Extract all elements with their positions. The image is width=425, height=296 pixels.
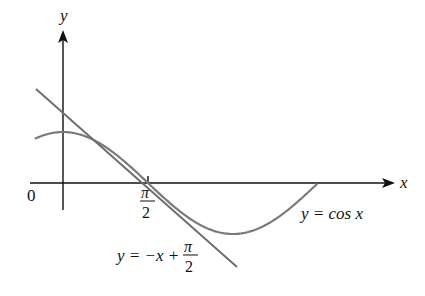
curve-label: y = cos x	[299, 204, 363, 223]
tangent-label: y = −x +	[115, 246, 179, 265]
tangent-line	[36, 89, 237, 267]
tangent-label-numerator: π	[184, 238, 193, 255]
tick-label-denominator: 2	[142, 204, 150, 221]
y-axis-label: y	[58, 6, 68, 25]
x-axis-label: x	[399, 173, 408, 192]
tangent-label-denominator: 2	[185, 258, 193, 275]
origin-label: 0	[27, 186, 36, 205]
figure: y x 0 π 2 y = cos x y = −x + π 2	[0, 0, 425, 296]
tick-label-numerator: π	[141, 184, 150, 201]
